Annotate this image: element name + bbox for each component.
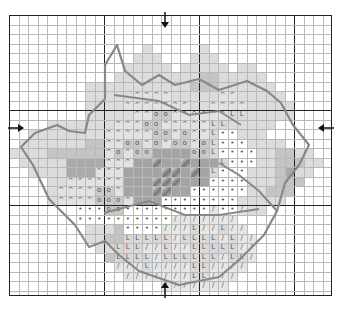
arrow-up-icon [155, 280, 175, 300]
pattern-frame [9, 15, 332, 296]
arrow-left-icon [316, 118, 336, 138]
arrow-down-icon [155, 10, 175, 30]
arrow-right-icon [6, 118, 26, 138]
